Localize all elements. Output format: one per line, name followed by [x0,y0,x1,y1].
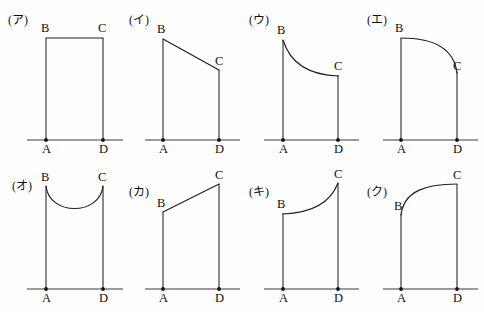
label-a: A [397,142,406,156]
label-a: A [159,142,168,156]
label-d: D [215,142,224,156]
label-a: A [159,291,168,305]
top-path-bc [401,184,457,215]
label-b: B [41,21,49,35]
label-a: A [397,291,406,305]
label-b: B [277,197,285,211]
label-b: B [395,21,403,35]
panel-tag-panel-a: (ア) [8,13,28,27]
label-a: A [42,142,51,156]
panel-o: BCAD(オ) [12,170,123,305]
label-b: B [157,22,165,36]
panel-a: BCAD(ア) [8,13,123,156]
panel-ka: BCAD(カ) [129,168,240,305]
panel-tag-panel-ka: (カ) [129,185,149,199]
panel-tag-panel-ki: (キ) [249,185,269,199]
diagram-canvas: BCAD(ア)BCAD(イ)BCAD(ウ)BCAD(エ)BCAD(オ)BCAD(… [0,0,484,312]
label-d: D [334,291,343,305]
label-d: D [334,142,343,156]
label-d: D [99,142,108,156]
label-d: D [215,291,224,305]
panel-ku: BCAD(ク) [367,168,478,305]
label-c: C [334,59,342,73]
panel-i: BCAD(イ) [129,13,240,156]
top-path-bc [283,183,338,214]
panel-ki: BCAD(キ) [249,167,359,305]
label-c: C [453,168,461,182]
label-c: C [215,54,223,68]
label-a: A [279,291,288,305]
label-d: D [453,142,462,156]
label-d: D [99,291,108,305]
panel-tag-panel-o: (オ) [12,179,32,193]
top-path-bc [163,39,219,70]
label-a: A [279,142,288,156]
label-b: B [394,199,402,213]
label-c: C [98,170,106,184]
label-c: C [334,167,342,181]
label-c: C [453,59,461,73]
panel-e: BCAD(エ) [367,13,478,156]
panel-tag-panel-ku: (ク) [367,185,387,199]
panel-tag-panel-i: (イ) [129,13,149,27]
panel-tag-panel-u: (ウ) [249,13,269,27]
label-c: C [215,168,223,182]
top-path-bc [283,40,338,76]
label-b: B [157,196,165,210]
panel-u: BCAD(ウ) [249,13,359,156]
label-b: B [41,170,49,184]
label-b: B [277,23,285,37]
label-a: A [42,291,51,305]
top-path-bc [46,186,103,209]
label-c: C [98,21,106,35]
label-d: D [453,291,462,305]
top-path-bc [163,184,219,212]
figure-sheet: BCAD(ア)BCAD(イ)BCAD(ウ)BCAD(エ)BCAD(オ)BCAD(… [0,0,484,312]
panel-tag-panel-e: (エ) [367,13,387,27]
top-path-bc [401,38,457,73]
